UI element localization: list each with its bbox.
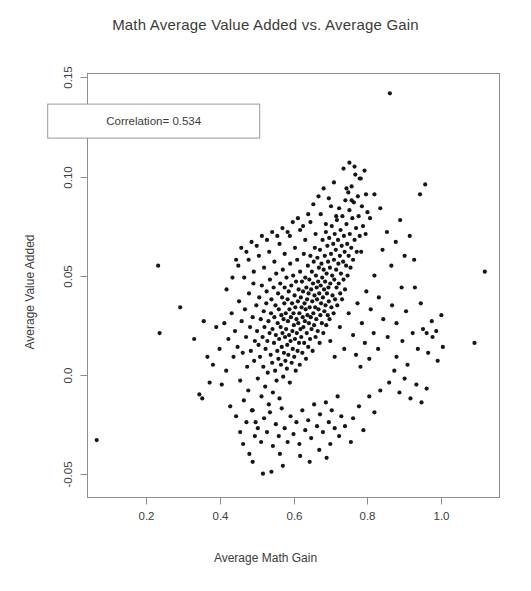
scatter-point <box>261 365 265 369</box>
scatter-point <box>304 357 308 361</box>
scatter-point <box>441 345 445 349</box>
scatter-point <box>298 454 302 458</box>
scatter-point <box>256 377 260 381</box>
scatter-point <box>351 333 355 337</box>
scatter-point <box>310 299 314 303</box>
scatter-point <box>306 212 310 216</box>
scatter-point <box>291 273 295 277</box>
scatter-point <box>387 380 391 384</box>
scatter-point <box>397 390 401 394</box>
scatter-point <box>351 416 355 420</box>
scatter-point <box>277 337 281 341</box>
scatter-point <box>231 355 235 359</box>
scatter-point <box>267 250 271 254</box>
scatter-point <box>265 430 269 434</box>
scatter-point <box>301 315 305 319</box>
scatter-point <box>288 339 292 343</box>
scatter-point <box>276 321 280 325</box>
scatter-point <box>408 396 412 400</box>
scatter-point <box>214 325 218 329</box>
scatter-point <box>268 277 272 281</box>
scatter-point <box>315 297 319 301</box>
y-tick-label: 0.05 <box>62 265 74 287</box>
scatter-point <box>235 345 239 349</box>
scatter-point <box>267 402 271 406</box>
scatter-point <box>364 289 368 293</box>
scatter-point <box>200 396 204 400</box>
scatter-point <box>265 289 269 293</box>
scatter-point <box>344 264 348 268</box>
scatter-point <box>368 216 372 220</box>
scatter-point <box>287 289 291 293</box>
scatter-point <box>283 359 287 363</box>
scatter-point <box>332 258 336 262</box>
scatter-point <box>336 262 340 266</box>
scatter-point <box>246 388 250 392</box>
scatter-point <box>234 258 238 262</box>
scatter-point <box>316 279 320 283</box>
scatter-point <box>367 357 371 361</box>
scatter-point <box>330 224 334 228</box>
scatter-point <box>279 313 283 317</box>
scatter-point <box>331 242 335 246</box>
scatter-point <box>472 341 476 345</box>
scatter-point <box>358 234 362 238</box>
scatter-point <box>280 345 284 349</box>
scatter-point <box>322 287 326 291</box>
scatter-point <box>277 307 281 311</box>
scatter-point <box>335 303 339 307</box>
scatter-point <box>322 186 326 190</box>
scatter-point <box>354 353 358 357</box>
scatter-point <box>402 254 406 258</box>
y-tick-label: 0.10 <box>62 166 74 188</box>
scatter-point <box>394 240 398 244</box>
scatter-point <box>208 380 212 384</box>
scatter-point <box>317 266 321 270</box>
scatter-point <box>293 293 297 297</box>
scatter-point <box>385 230 389 234</box>
scatter-point <box>483 270 487 274</box>
scatter-point <box>330 293 334 297</box>
scatter-point <box>338 291 342 295</box>
scatter-point <box>296 216 300 220</box>
scatter-point <box>367 394 371 398</box>
scatter-point <box>277 242 281 246</box>
scatter-point <box>439 313 443 317</box>
scatter-point <box>423 182 427 186</box>
scatter-point <box>380 248 384 252</box>
scatter-point <box>425 386 429 390</box>
scatter-point <box>381 317 385 321</box>
scatter-point <box>292 355 296 359</box>
scatter-point <box>315 256 319 260</box>
scatter-point <box>388 91 392 95</box>
scatter-point <box>344 222 348 226</box>
scatter-point <box>280 295 284 299</box>
scatter-point <box>323 303 327 307</box>
scatter-point <box>260 283 264 287</box>
scatter-point <box>377 295 381 299</box>
scatter-point <box>291 220 295 224</box>
scatter-point <box>283 335 287 339</box>
scatter-point <box>419 301 423 305</box>
scatter-point <box>244 250 248 254</box>
scatter-point <box>316 307 320 311</box>
scatter-point <box>314 273 318 277</box>
scatter-point <box>274 333 278 337</box>
scatter-point <box>262 266 266 270</box>
scatter-point <box>306 418 310 422</box>
scatter-point <box>281 317 285 321</box>
scatter-point <box>310 270 314 274</box>
scatter-point <box>251 315 255 319</box>
scatter-point <box>340 214 344 218</box>
scatter-point <box>338 254 342 258</box>
scatter-point <box>260 234 264 238</box>
scatter-point <box>352 165 356 169</box>
scatter-point <box>306 264 310 268</box>
scatter-point <box>259 440 263 444</box>
scatter-point <box>262 416 266 420</box>
scatter-point <box>355 250 359 254</box>
scatter-point <box>321 430 325 434</box>
scatter-point <box>308 337 312 341</box>
scatter-point <box>297 287 301 291</box>
scatter-point <box>338 325 342 329</box>
